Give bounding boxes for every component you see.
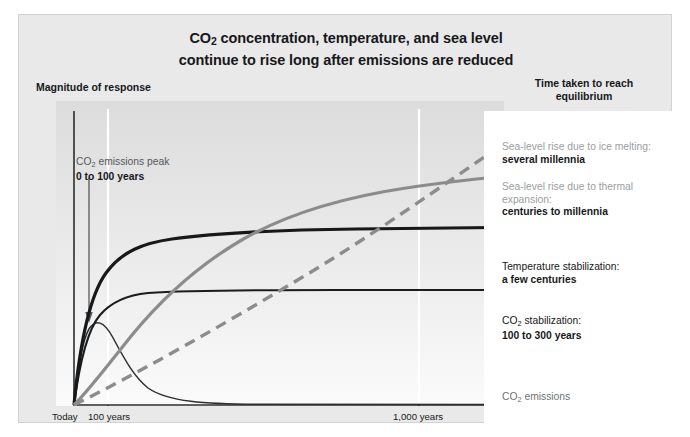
legend-item-co2-stabilization-value: 100 to 300 years: [502, 330, 582, 341]
legend-item-thermal-expansion-label-2: expansion:: [502, 194, 552, 205]
legend-item-co2-emissions-label: CO2 emissions: [502, 391, 570, 402]
legend-item-temperature-value: a few centuries: [502, 274, 576, 285]
figure-frame: CO2 concentration, temperature, and sea …: [18, 14, 672, 423]
x-tick-label-1000-years: 1,000 years: [393, 411, 443, 422]
chart-plot-area: [56, 101, 504, 406]
legend-heading-line-2: equilibrium: [556, 90, 613, 102]
legend-item-ice-melting: Sea-level rise due to ice melting: sever…: [502, 141, 674, 166]
legend-item-co2-stabilization-label: CO2 stabilization:: [502, 315, 581, 326]
legend-heading-line-1: Time taken to reach: [535, 77, 633, 89]
plot-background: [56, 101, 504, 406]
page-title: CO2 concentration, temperature, and sea …: [19, 29, 673, 70]
chart-svg: [56, 101, 504, 406]
annotation-line-2: 0 to 100 years: [76, 171, 144, 182]
legend-item-thermal-expansion-value: centuries to millennia: [502, 206, 608, 217]
legend-item-thermal-expansion-label-1: Sea-level rise due to thermal: [502, 181, 633, 192]
legend-item-temperature-label: Temperature stabilization:: [502, 261, 619, 272]
x-tick-label-today: Today: [52, 411, 78, 422]
legend-item-temperature: Temperature stabilization: a few centuri…: [502, 261, 674, 286]
legend-item-co2-stabilization: CO2 stabilization: 100 to 300 years: [502, 315, 674, 343]
emissions-peak-annotation: CO2 emissions peak 0 to 100 years: [76, 156, 226, 184]
legend-item-co2-emissions: CO2 emissions: [502, 391, 674, 406]
y-axis-label: Magnitude of response: [36, 81, 151, 93]
legend-item-ice-melting-label: Sea-level rise due to ice melting:: [502, 141, 651, 152]
legend-item-thermal-expansion: Sea-level rise due to thermal expansion:…: [502, 181, 674, 219]
legend-heading: Time taken to reach equilibrium: [495, 77, 673, 103]
figure-page: CO2 concentration, temperature, and sea …: [0, 0, 690, 437]
annotation-line-1: CO2 emissions peak: [76, 156, 169, 167]
legend-panel: Sea-level rise due to ice melting: sever…: [484, 111, 673, 423]
legend-item-ice-melting-value: several millennia: [502, 154, 585, 165]
title-line-2: continue to rise long after emissions ar…: [19, 51, 673, 70]
title-line-1: CO2 concentration, temperature, and sea …: [19, 29, 673, 51]
x-tick-label-100-years: 100 years: [88, 411, 130, 422]
